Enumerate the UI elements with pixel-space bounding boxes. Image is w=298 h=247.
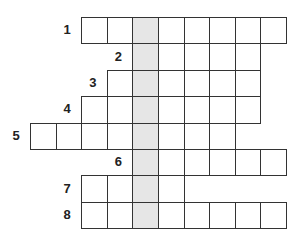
crossword-cell[interactable] xyxy=(158,202,185,229)
highlighted-cell[interactable] xyxy=(132,175,159,203)
crossword-cell[interactable] xyxy=(235,70,261,97)
crossword-cell[interactable] xyxy=(158,96,185,124)
crossword-cell[interactable] xyxy=(260,149,287,176)
crossword-cell[interactable] xyxy=(235,202,261,229)
crossword-cell[interactable] xyxy=(107,202,133,229)
highlighted-cell[interactable] xyxy=(132,123,159,150)
crossword-cell[interactable] xyxy=(81,175,108,203)
clue-number: 1 xyxy=(59,22,75,38)
highlighted-cell[interactable] xyxy=(132,70,159,97)
crossword-cell[interactable] xyxy=(107,123,133,150)
crossword-cell[interactable] xyxy=(107,70,133,97)
crossword-cell[interactable] xyxy=(107,17,133,44)
crossword-cell[interactable] xyxy=(158,149,185,176)
crossword-cell[interactable] xyxy=(158,123,185,150)
crossword-cell[interactable] xyxy=(158,17,185,44)
crossword-cell[interactable] xyxy=(184,43,210,71)
crossword-cell[interactable] xyxy=(107,96,133,124)
crossword-cell[interactable] xyxy=(209,70,236,97)
highlighted-cell[interactable] xyxy=(132,96,159,124)
highlighted-cell[interactable] xyxy=(132,202,159,229)
crossword-cell[interactable] xyxy=(81,17,108,44)
crossword-cell[interactable] xyxy=(56,123,82,150)
crossword-cell[interactable] xyxy=(81,123,108,150)
crossword-cell[interactable] xyxy=(184,149,210,176)
crossword-grid: 12345678 xyxy=(0,0,298,247)
crossword-cell[interactable] xyxy=(184,202,210,229)
highlighted-cell[interactable] xyxy=(132,149,159,176)
clue-number: 7 xyxy=(59,181,75,197)
crossword-cell[interactable] xyxy=(235,96,261,124)
crossword-cell[interactable] xyxy=(235,149,261,176)
highlighted-cell[interactable] xyxy=(132,17,159,44)
crossword-cell[interactable] xyxy=(184,123,210,150)
highlighted-cell[interactable] xyxy=(132,43,159,71)
crossword-cell[interactable] xyxy=(209,123,236,150)
clue-number: 8 xyxy=(59,207,75,223)
crossword-cell[interactable] xyxy=(209,17,236,44)
crossword-cell[interactable] xyxy=(184,96,210,124)
crossword-cell[interactable] xyxy=(158,43,185,71)
crossword-cell[interactable] xyxy=(81,96,108,124)
crossword-cell[interactable] xyxy=(30,123,57,150)
crossword-cell[interactable] xyxy=(235,43,261,71)
crossword-cell[interactable] xyxy=(158,70,185,97)
crossword-cell[interactable] xyxy=(209,96,236,124)
crossword-cell[interactable] xyxy=(260,17,287,44)
crossword-cell[interactable] xyxy=(235,17,261,44)
crossword-cell[interactable] xyxy=(107,175,133,203)
crossword-cell[interactable] xyxy=(184,17,210,44)
crossword-cell[interactable] xyxy=(158,175,185,203)
crossword-cell[interactable] xyxy=(209,149,236,176)
clue-number: 6 xyxy=(110,154,126,170)
crossword-cell[interactable] xyxy=(81,202,108,229)
crossword-cell[interactable] xyxy=(184,70,210,97)
crossword-cell[interactable] xyxy=(260,202,287,229)
clue-number: 4 xyxy=(59,101,75,117)
clue-number: 5 xyxy=(8,128,24,144)
crossword-cell[interactable] xyxy=(209,43,236,71)
clue-number: 2 xyxy=(110,49,126,65)
clue-number: 3 xyxy=(85,75,101,91)
crossword-cell[interactable] xyxy=(209,202,236,229)
